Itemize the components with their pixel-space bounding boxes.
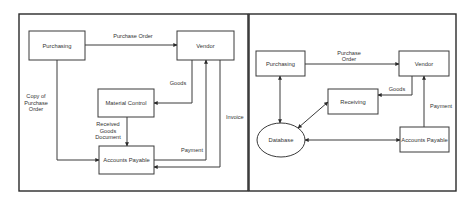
left-edge-payment bbox=[154, 60, 206, 160]
left-edge-purchase-order-label: Purchase Order bbox=[113, 33, 153, 39]
left-node-material-control-label: Material Control bbox=[106, 100, 147, 106]
right-node-purchasing-label: Purchasing bbox=[266, 61, 295, 67]
right-node-purchasing[interactable]: Purchasing bbox=[256, 51, 305, 76]
diagram-canvas: Purchasing Vendor Material Control Accou… bbox=[0, 0, 473, 202]
left-edge-rgd-label-3: Document bbox=[95, 134, 121, 140]
left-node-purchasing-label: Purchasing bbox=[42, 43, 71, 49]
left-node-material-control[interactable]: Material Control bbox=[98, 89, 154, 117]
right-node-accounts-payable[interactable]: Accounts Payable bbox=[400, 127, 449, 152]
right-node-receiving[interactable]: Receiving bbox=[328, 89, 378, 114]
left-edge-copy-po-label-1: Copy of bbox=[26, 93, 46, 99]
left-diagram: Purchasing Vendor Material Control Accou… bbox=[19, 14, 248, 191]
left-edge-rgd-label-2: Goods bbox=[100, 128, 117, 134]
left-node-accounts-payable[interactable]: Accounts Payable bbox=[99, 146, 154, 174]
right-node-receiving-label: Receiving bbox=[340, 99, 365, 105]
right-node-accounts-payable-label: Accounts Payable bbox=[401, 137, 447, 143]
right-edge-payment-label: Payment bbox=[430, 103, 453, 109]
left-node-purchasing[interactable]: Purchasing bbox=[29, 31, 85, 60]
right-node-vendor-label: Vendor bbox=[415, 61, 433, 67]
left-edge-invoice-label: Invoice bbox=[226, 114, 244, 120]
right-node-database-label: Database bbox=[269, 137, 294, 143]
left-node-vendor[interactable]: Vendor bbox=[177, 31, 234, 60]
right-edge-database-receiving bbox=[298, 102, 328, 128]
right-diagram: Purchasing Vendor Receiving Database Acc… bbox=[249, 14, 456, 191]
right-edge-po-label-2: Order bbox=[342, 56, 356, 62]
left-edge-rgd-label-1: Received bbox=[96, 121, 119, 127]
left-edge-copy-po bbox=[57, 60, 99, 160]
left-node-vendor-label: Vendor bbox=[196, 43, 214, 49]
left-node-accounts-payable-label: Accounts Payable bbox=[103, 157, 149, 163]
right-node-database[interactable]: Database bbox=[257, 123, 305, 157]
left-edge-copy-po-label-3: Order bbox=[29, 106, 43, 112]
left-edge-payment-label: Payment bbox=[181, 147, 204, 153]
right-edge-goods-label: Goods bbox=[389, 86, 406, 92]
left-edge-goods-label: Goods bbox=[170, 80, 187, 86]
left-edge-copy-po-label-2: Purchase bbox=[24, 100, 48, 106]
right-node-vendor[interactable]: Vendor bbox=[399, 51, 449, 76]
